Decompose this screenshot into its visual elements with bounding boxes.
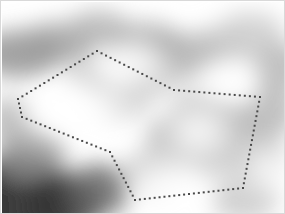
polygon-dot xyxy=(109,151,111,153)
polygon-dot xyxy=(198,91,200,93)
polygon-dot xyxy=(21,95,23,97)
polygon-dot xyxy=(208,191,210,193)
polygon-dot xyxy=(18,103,20,105)
polygon-dot xyxy=(247,158,249,160)
polygon-dot xyxy=(188,90,190,92)
polygon-dot xyxy=(86,142,88,144)
polygon-dot xyxy=(90,144,92,146)
polygon-dot xyxy=(43,82,45,84)
polygon-dot xyxy=(78,61,80,63)
polygon-dot xyxy=(53,129,55,131)
polygon-dot xyxy=(150,78,152,80)
polygon-dot xyxy=(248,153,250,155)
image-frame xyxy=(0,0,285,214)
polygon-dot xyxy=(208,92,210,94)
polygon-dot xyxy=(114,160,116,162)
polygon-dot xyxy=(30,90,32,92)
polygon-dot xyxy=(250,144,252,146)
polygon-dot xyxy=(163,196,165,198)
screenshot-root xyxy=(0,0,285,214)
polygon-dot xyxy=(258,101,260,103)
polygon-dot xyxy=(61,71,63,73)
polygon-dot xyxy=(242,187,244,189)
polygon-dot xyxy=(251,139,253,141)
polygon-dot xyxy=(17,98,19,100)
polygon-dot xyxy=(70,66,72,68)
polygon-dot xyxy=(249,95,251,97)
polygon-dot xyxy=(35,122,37,124)
polygon-dot xyxy=(92,53,94,55)
polygon-dot xyxy=(137,71,139,73)
dotted-polygon-roi[interactable] xyxy=(17,50,261,201)
polygon-dot xyxy=(144,198,146,200)
polygon-dot xyxy=(111,155,113,157)
polygon-dot xyxy=(254,96,256,98)
polygon-dot xyxy=(243,182,245,184)
polygon-dot xyxy=(193,91,195,93)
polygon-dot xyxy=(105,55,107,57)
polygon-dot xyxy=(149,197,151,199)
polygon-dot xyxy=(74,63,76,65)
polygon-dot xyxy=(178,89,180,91)
polygon-dot xyxy=(26,93,28,95)
image-canvas xyxy=(2,2,285,214)
polygon-dot xyxy=(129,190,131,192)
polygon-dot xyxy=(19,107,21,109)
polygon-dot xyxy=(159,196,161,198)
polygon-dot xyxy=(120,173,122,175)
polygon-dot xyxy=(81,140,83,142)
polygon-dot xyxy=(49,127,51,129)
polygon-dot xyxy=(100,147,102,149)
polygon-dot xyxy=(116,164,118,166)
polygon-dot xyxy=(58,131,60,133)
polygon-dot xyxy=(254,125,256,127)
polygon-dot xyxy=(159,82,161,84)
polygon-dot xyxy=(40,123,42,125)
polygon-dot xyxy=(256,110,258,112)
polygon-dot xyxy=(249,149,251,151)
polygon-dot xyxy=(164,84,166,86)
polygon-dot xyxy=(229,94,231,96)
polygon-dot xyxy=(67,134,69,136)
polygon-dot xyxy=(239,94,241,96)
polygon-dot xyxy=(178,194,180,196)
polygon-dot xyxy=(237,188,239,190)
polygon-dot xyxy=(168,87,170,89)
polygon-dot xyxy=(246,168,248,170)
polygon-dot xyxy=(132,195,134,197)
polygon-dot xyxy=(183,90,185,92)
polygon-dot xyxy=(245,173,247,175)
polygon-dot xyxy=(168,195,170,197)
polygon-dot xyxy=(188,193,190,195)
polygon-dot xyxy=(227,189,229,191)
polygon-dot xyxy=(52,77,54,79)
polygon-dot xyxy=(154,197,156,199)
polygon-dot xyxy=(101,52,103,54)
polygon-dot xyxy=(123,177,125,179)
polygon-dot xyxy=(213,92,215,94)
polygon-dot xyxy=(123,64,125,66)
polygon-dot xyxy=(127,186,129,188)
polygon-dot xyxy=(222,189,224,191)
polygon-dot xyxy=(119,61,121,63)
polygon-dot xyxy=(155,80,157,82)
polygon-dot xyxy=(234,94,236,96)
polygon-dot xyxy=(139,198,141,200)
polygon-dot xyxy=(96,50,98,52)
polygon-dot xyxy=(57,74,59,76)
polygon-dot xyxy=(219,93,221,95)
polygon-dot xyxy=(30,120,32,122)
polygon-dot xyxy=(255,115,257,117)
polygon-dot xyxy=(95,145,97,147)
polygon-dot xyxy=(104,149,106,151)
polygon-dot xyxy=(257,106,259,108)
polygon-dot xyxy=(244,95,246,97)
polygon-dot xyxy=(63,133,65,135)
polygon-dot xyxy=(21,116,23,118)
polygon-dot xyxy=(39,85,41,87)
polygon-dot xyxy=(203,91,205,93)
polygon-dot xyxy=(203,191,205,193)
polygon-dot xyxy=(118,168,120,170)
polygon-dot xyxy=(173,195,175,197)
polygon-dot xyxy=(213,190,215,192)
